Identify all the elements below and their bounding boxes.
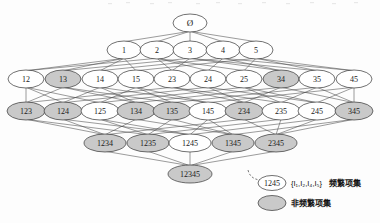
scan-artifact: [238, 3, 242, 4]
lattice-edge: [63, 58, 190, 70]
lattice-edge: [190, 151, 233, 165]
legend-group: 1245{I₁,I₂,I₄,I₅}频繁项集非频繁项集: [248, 170, 362, 211]
lattice-node-12[interactable]: 12: [8, 70, 44, 88]
lattice-edge: [136, 87, 281, 102]
lattice-node-124[interactable]: 124: [44, 102, 82, 120]
lattice-node-5[interactable]: 5: [239, 41, 273, 59]
legend-item-infrequent: 非频繁项集: [258, 196, 332, 211]
lattice-node-label: 1: [122, 46, 126, 55]
scan-artifact: [332, 3, 336, 4]
lattice-edge: [63, 87, 208, 102]
legend-item-frequent: 1245{I₁,I₂,I₄,I₅}频繁项集: [258, 176, 362, 191]
lattice-edge: [136, 58, 256, 70]
lattice-edge: [105, 151, 190, 165]
lattice-edge: [256, 58, 317, 70]
lattice-node-14[interactable]: 14: [82, 70, 118, 88]
scan-artifacts-group: [108, 2, 358, 4]
lattice-node-label: 1245: [182, 139, 198, 148]
lattice-edge: [26, 58, 124, 70]
lattice-node-234[interactable]: 234: [225, 102, 263, 120]
lattice-node-label: 145: [202, 107, 214, 116]
lattice-node-125[interactable]: 125: [81, 102, 119, 120]
itemset-lattice-figure: Ø123451213141523242534354512312412513413…: [0, 0, 380, 223]
lattice-node-35[interactable]: 35: [299, 70, 335, 88]
lattice-node-label: 135: [166, 107, 178, 116]
lattice-edge: [172, 87, 317, 102]
lattice-node-label: 12345: [180, 170, 200, 179]
lattice-node-label: 5: [254, 46, 258, 55]
lattice-node-label: 245: [311, 107, 323, 116]
lattice-edge: [26, 58, 157, 70]
lattice-edge: [26, 87, 100, 102]
scan-artifact: [150, 3, 154, 4]
lattice-edge: [100, 58, 223, 70]
lattice-edge: [190, 31, 256, 41]
lattice-edge: [124, 31, 190, 41]
lattice-node-label: 3: [188, 46, 192, 55]
lattice-edge: [148, 151, 190, 165]
lattice-node-45[interactable]: 45: [336, 70, 372, 88]
lattice-node-1[interactable]: 1: [107, 41, 141, 59]
lattice-node-1345[interactable]: 1345: [212, 134, 254, 152]
lattice-node-label: 15: [132, 75, 140, 84]
lattice-node-1235[interactable]: 1235: [127, 134, 169, 152]
lattice-edge: [208, 87, 354, 102]
lattice-node-label: 134: [130, 107, 142, 116]
lattice-node-235[interactable]: 235: [262, 102, 300, 120]
lattice-node-label: 24: [204, 75, 212, 84]
lattice-node-label: 2345: [268, 139, 284, 148]
lattice-edge: [233, 119, 354, 134]
lattice-edge: [63, 87, 100, 102]
lattice-node-135[interactable]: 135: [153, 102, 191, 120]
lattice-node-label: 345: [348, 107, 360, 116]
lattice-edge: [208, 119, 233, 134]
lattice-node-2[interactable]: 2: [140, 41, 174, 59]
lattice-node-1245[interactable]: 1245: [169, 134, 211, 152]
lattice-node-4[interactable]: 4: [206, 41, 240, 59]
lattice-node-245[interactable]: 245: [298, 102, 336, 120]
lattice-node-label: 12: [22, 75, 30, 84]
lattice-edge: [276, 119, 281, 134]
lattice-edge: [26, 119, 148, 134]
scan-artifact: [286, 3, 290, 4]
lattice-node-24[interactable]: 24: [190, 70, 226, 88]
lattice-node-3[interactable]: 3: [173, 41, 207, 59]
scan-artifact: [196, 3, 200, 4]
scan-artifact: [126, 2, 130, 3]
lattice-edge: [190, 119, 208, 134]
lattice-node-label: 25: [240, 75, 248, 84]
lattice-node-empty-set[interactable]: Ø: [173, 14, 207, 32]
lattice-node-345[interactable]: 345: [335, 102, 373, 120]
lattice-edge: [172, 58, 190, 70]
lattice-node-label: 4: [221, 46, 225, 55]
legend-description: 频繁项集: [329, 178, 362, 188]
lattice-edge: [276, 119, 354, 134]
lattice-node-13[interactable]: 13: [45, 70, 81, 88]
scan-artifact: [216, 2, 220, 3]
lattice-node-label: 34: [277, 75, 285, 84]
scan-artifact: [262, 2, 266, 3]
lattice-node-label: 123: [20, 107, 32, 116]
lattice-node-label: 234: [238, 107, 250, 116]
legend-swatch-ellipse: [258, 196, 286, 211]
lattice-node-label: 1235: [140, 139, 156, 148]
lattice-diagram-canvas: Ø123451213141523242534354512312412513413…: [0, 0, 380, 223]
lattice-node-134[interactable]: 134: [117, 102, 155, 120]
scan-artifact: [310, 2, 314, 3]
lattice-node-23[interactable]: 23: [154, 70, 190, 88]
lattice-edge: [281, 87, 354, 102]
lattice-edge: [190, 31, 223, 41]
lattice-edge: [26, 119, 105, 134]
lattice-node-123[interactable]: 123: [7, 102, 45, 120]
lattice-node-2345[interactable]: 2345: [255, 134, 297, 152]
lattice-edge: [26, 87, 172, 102]
lattice-node-25[interactable]: 25: [226, 70, 262, 88]
lattice-node-12345[interactable]: 12345: [168, 165, 212, 183]
scan-artifact: [168, 2, 172, 3]
legend-set-notation: {I₁,I₂,I₄,I₅}: [291, 179, 323, 188]
lattice-node-label: 124: [57, 107, 69, 116]
lattice-node-34[interactable]: 34: [263, 70, 299, 88]
lattice-node-145[interactable]: 145: [189, 102, 227, 120]
lattice-node-1234[interactable]: 1234: [84, 134, 126, 152]
lattice-node-15[interactable]: 15: [118, 70, 154, 88]
